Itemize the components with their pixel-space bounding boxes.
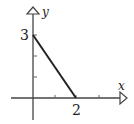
x-axis-label: x: [118, 79, 125, 93]
line-segment: [33, 35, 76, 98]
y-axis-arrow-icon: [27, 7, 39, 14]
coordinate-graph: y x 3 2: [0, 0, 134, 124]
x-tick-label-2: 2: [72, 102, 81, 118]
y-axis-label: y: [41, 5, 49, 19]
y-tick-label-3: 3: [20, 27, 29, 43]
x-axis-arrow-icon: [120, 92, 127, 104]
